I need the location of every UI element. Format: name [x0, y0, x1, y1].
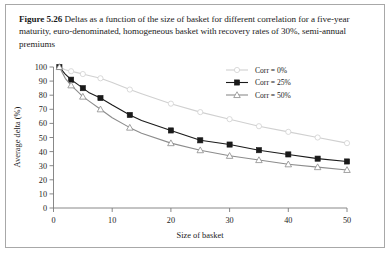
figure-frame: Figure 5.26 Deltas as a function of the … [5, 4, 385, 248]
data-point [198, 110, 203, 115]
delta-vs-basket-size-chart: 0102030405060708090100 01020304050 Size … [6, 53, 384, 247]
legend-marker [234, 80, 239, 85]
data-point [127, 124, 134, 130]
x-tick-label: 40 [284, 216, 292, 225]
y-tick-label: 50 [39, 134, 47, 143]
data-point [344, 141, 349, 146]
data-point [69, 69, 74, 74]
y-tick-label: 10 [39, 190, 47, 199]
data-point [286, 152, 291, 157]
chart-area: 0102030405060708090100 01020304050 Size … [6, 53, 384, 247]
x-tick-label: 30 [226, 216, 234, 225]
data-point [168, 101, 173, 106]
y-tick-label: 100 [35, 63, 47, 72]
data-point [198, 138, 203, 143]
data-point [168, 128, 173, 133]
y-tick-label: 30 [39, 162, 47, 171]
data-point [227, 142, 232, 147]
y-tick-label: 90 [39, 77, 47, 86]
x-axis-title: Size of basket [177, 231, 225, 240]
data-point [127, 112, 132, 117]
series-1 [57, 64, 350, 145]
data-point [98, 95, 103, 100]
data-series-layer [56, 64, 350, 173]
y-tick-label: 0 [43, 204, 47, 213]
figure-caption: Figure 5.26 Deltas as a function of the … [19, 13, 371, 50]
legend-item-3: Corr = 50% [226, 91, 292, 100]
y-tick-label: 70 [39, 105, 47, 114]
data-point [127, 87, 132, 92]
figure-caption-text: Deltas as a function of the size of bask… [19, 14, 349, 49]
data-point [97, 106, 104, 112]
legend-label: Corr = 25% [255, 78, 292, 87]
legend-item-1: Corr = 0% [226, 66, 288, 75]
x-tick-label: 0 [51, 216, 55, 225]
x-tick-label: 20 [167, 216, 175, 225]
y-tick-label: 20 [39, 176, 47, 185]
y-tick-label: 80 [39, 91, 47, 100]
legend-item-2: Corr = 25% [226, 78, 292, 87]
chart-legend: Corr = 0%Corr = 25%Corr = 50% [226, 66, 292, 100]
data-point [344, 159, 349, 164]
data-point [80, 86, 85, 91]
x-tick-label: 50 [343, 216, 351, 225]
legend-marker [234, 67, 239, 72]
data-point [315, 156, 320, 161]
data-point [256, 124, 261, 129]
data-point [256, 148, 261, 153]
legend-label: Corr = 50% [255, 91, 292, 100]
x-tick-label: 10 [108, 216, 116, 225]
figure-caption-label: Figure 5.26 [19, 14, 62, 24]
y-axis-title: Average delta (%) [13, 106, 22, 167]
y-tick-label: 40 [39, 148, 47, 157]
data-point [80, 71, 85, 76]
legend-label: Corr = 0% [255, 66, 288, 75]
x-axis-ticks: 01020304050 [51, 208, 351, 225]
y-tick-label: 60 [39, 119, 47, 128]
data-point [315, 135, 320, 140]
data-point [286, 129, 291, 134]
y-axis-ticks: 0102030405060708090100 [35, 63, 54, 213]
data-point [98, 76, 103, 81]
data-point [227, 117, 232, 122]
